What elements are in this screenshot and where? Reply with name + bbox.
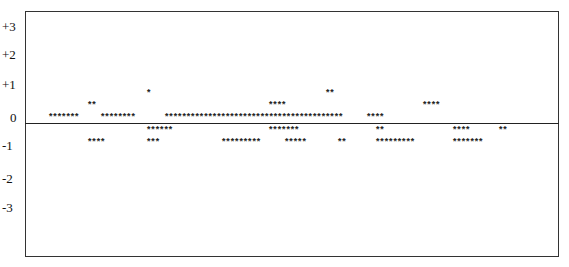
star-marker-group: **** (452, 127, 469, 136)
y-tick-label: -1 (2, 139, 24, 153)
star-marker-group: ** (325, 90, 334, 99)
star-marker-group: **** (87, 139, 104, 148)
star-marker-group: **** (268, 102, 285, 111)
y-tick-label: +1 (2, 78, 24, 92)
star-marker-group: ******* (268, 127, 298, 136)
y-tick-label: +2 (2, 48, 24, 62)
star-marker-group: *** (146, 139, 159, 148)
star-marker-group: ******* (48, 114, 78, 123)
star-marker-group: **** (366, 114, 383, 123)
star-marker-group: ** (375, 127, 384, 136)
star-marker-group: ** (337, 139, 346, 148)
y-tick-label: -3 (2, 201, 24, 215)
y-tick-label: 0 (10, 111, 32, 125)
star-marker-group: **** (422, 102, 439, 111)
star-marker-group: * (146, 90, 150, 99)
star-marker-group: ******* (452, 139, 482, 148)
star-marker-group: ** (498, 127, 507, 136)
y-tick-label: +3 (2, 20, 24, 34)
y-tick-label: -2 (2, 172, 24, 186)
zero-baseline (25, 123, 559, 124)
star-marker-group: ********* (375, 139, 414, 148)
star-marker-group: ********* (221, 139, 260, 148)
star-marker-group: ******** (100, 114, 135, 123)
star-marker-group: ** (87, 102, 96, 111)
star-marker-group: ****** (146, 127, 172, 136)
star-marker-group: ***** (284, 139, 306, 148)
star-marker-group: ****************************************… (164, 114, 342, 123)
